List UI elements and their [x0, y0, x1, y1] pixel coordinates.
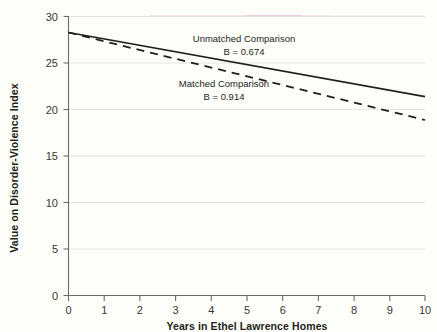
x-tick-label-2: 2	[137, 304, 143, 316]
y-tick-label-5: 5	[52, 243, 58, 255]
y-tick-label-30: 30	[46, 11, 58, 23]
y-tick-label-20: 20	[46, 104, 58, 116]
x-tick-label-5: 5	[244, 304, 250, 316]
x-axis-title: Years in Ethel Lawrence Homes	[166, 320, 327, 332]
chart-background	[0, 0, 437, 332]
x-tick-label-9: 9	[387, 304, 393, 316]
annotation-unmatched-label: Unmatched Comparison	[193, 33, 295, 44]
annotation-matched-coefficient: B = 0.914	[204, 91, 245, 102]
y-tick-label-15: 15	[46, 150, 58, 162]
x-tick-label-0: 0	[65, 304, 71, 316]
x-tick-label-4: 4	[208, 304, 214, 316]
chart-figure: 30 25 20 15 10 5 0 0 1 2 3 4 5 6 7 8 9 1…	[0, 0, 437, 332]
disorder-violence-index-line-chart: 30 25 20 15 10 5 0 0 1 2 3 4 5 6 7 8 9 1…	[0, 0, 437, 332]
x-tick-label-7: 7	[315, 304, 321, 316]
annotation-unmatched-coefficient: B = 0.674	[224, 46, 265, 57]
x-tick-label-8: 8	[351, 304, 357, 316]
y-tick-label-0: 0	[52, 290, 58, 302]
annotation-matched-label: Matched Comparison	[179, 78, 269, 89]
x-tick-label-3: 3	[173, 304, 179, 316]
y-tick-label-10: 10	[46, 197, 58, 209]
x-tick-label-6: 6	[280, 304, 286, 316]
y-axis-title: Value on Disorder-Violence Index	[8, 83, 20, 252]
x-tick-label-1: 1	[101, 304, 107, 316]
y-tick-label-25: 25	[46, 57, 58, 69]
x-tick-label-10: 10	[419, 304, 431, 316]
